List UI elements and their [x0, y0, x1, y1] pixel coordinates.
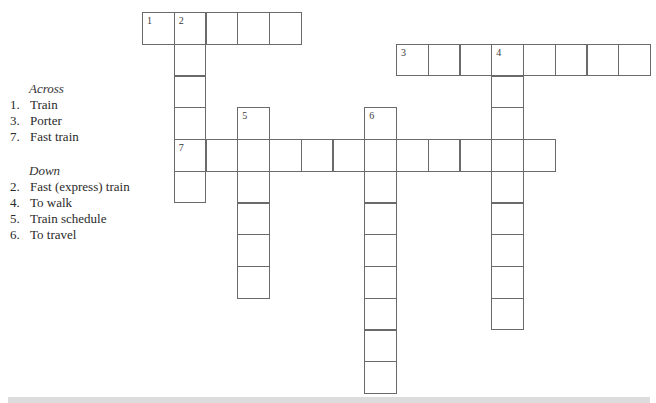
grid-cell[interactable]	[618, 44, 651, 77]
cell-number: 3	[401, 47, 406, 58]
cell-number: 1	[147, 15, 152, 26]
page-bottom-edge	[8, 397, 650, 403]
grid-cell[interactable]	[174, 107, 207, 140]
grid-cell[interactable]	[491, 298, 524, 331]
cell-number: 4	[496, 47, 501, 58]
grid-cell[interactable]	[237, 12, 270, 45]
grid-cell[interactable]	[491, 76, 524, 109]
grid-cell[interactable]	[174, 171, 207, 204]
grid-cell[interactable]	[237, 171, 270, 204]
grid-cell[interactable]	[491, 171, 524, 204]
grid-cell[interactable]	[206, 12, 239, 45]
grid-cell[interactable]: 3	[396, 44, 429, 77]
grid-cell[interactable]	[523, 44, 556, 77]
cell-number: 7	[179, 142, 184, 153]
cell-number: 2	[179, 15, 184, 26]
grid-cell[interactable]	[364, 234, 397, 267]
grid-cell[interactable]: 2	[174, 12, 207, 45]
grid-cell[interactable]	[333, 139, 366, 172]
grid-cell[interactable]: 1	[142, 12, 175, 45]
grid-cell[interactable]	[237, 139, 270, 172]
grid-cell[interactable]	[364, 171, 397, 204]
grid-cell[interactable]	[396, 139, 429, 172]
grid-cell[interactable]	[269, 139, 302, 172]
grid-cell[interactable]	[237, 266, 270, 299]
grid-cell[interactable]: 4	[491, 44, 524, 77]
crossword-grid: 1273456	[0, 0, 656, 400]
grid-cell[interactable]: 5	[237, 107, 270, 140]
grid-cell[interactable]	[364, 298, 397, 331]
grid-cell[interactable]	[174, 44, 207, 77]
grid-cell[interactable]	[428, 44, 461, 77]
grid-cell[interactable]	[364, 139, 397, 172]
grid-cell[interactable]	[364, 203, 397, 236]
grid-cell[interactable]	[491, 107, 524, 140]
grid-cell[interactable]	[587, 44, 620, 77]
grid-cell[interactable]	[364, 266, 397, 299]
grid-cell[interactable]	[523, 139, 556, 172]
grid-cell[interactable]	[491, 139, 524, 172]
grid-cell[interactable]	[491, 266, 524, 299]
grid-cell[interactable]	[206, 139, 239, 172]
grid-cell[interactable]	[460, 139, 493, 172]
grid-cell[interactable]	[428, 139, 461, 172]
grid-cell[interactable]: 6	[364, 107, 397, 140]
grid-cell[interactable]	[269, 12, 302, 45]
grid-cell[interactable]	[491, 203, 524, 236]
grid-cell[interactable]: 7	[174, 139, 207, 172]
cell-number: 6	[369, 110, 374, 121]
grid-cell[interactable]	[301, 139, 334, 172]
grid-cell[interactable]	[491, 234, 524, 267]
grid-cell[interactable]	[237, 234, 270, 267]
grid-cell[interactable]	[237, 203, 270, 236]
grid-cell[interactable]	[174, 76, 207, 109]
cell-number: 5	[242, 110, 247, 121]
grid-cell[interactable]	[364, 330, 397, 363]
grid-cell[interactable]	[364, 361, 397, 394]
grid-cell[interactable]	[555, 44, 588, 77]
grid-cell[interactable]	[460, 44, 493, 77]
